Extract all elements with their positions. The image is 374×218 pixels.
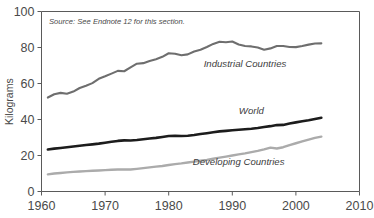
series-label-world: World xyxy=(239,105,265,116)
x-tick-label-1980: 1980 xyxy=(155,199,183,213)
x-tick-label-2000: 2000 xyxy=(282,199,310,213)
series-line-world xyxy=(48,118,321,150)
series-label-industrial-countries: Industrial Countries xyxy=(204,58,287,69)
chart-container: 020406080100 196019701980199020002010 In… xyxy=(0,0,374,218)
y-tick-label-80: 80 xyxy=(21,41,35,55)
kilograms-line-chart: 020406080100 196019701980199020002010 In… xyxy=(0,0,374,218)
x-tick-label-1990: 1990 xyxy=(218,199,246,213)
x-tick-label-1970: 1970 xyxy=(91,199,119,213)
x-tick-label-1960: 1960 xyxy=(28,199,56,213)
x-tick-label-2010: 2010 xyxy=(346,199,374,213)
y-tick-label-20: 20 xyxy=(21,149,35,163)
y-axis-title: Kilograms xyxy=(3,78,15,125)
series-label-developing-countries: Developing Countries xyxy=(193,156,285,167)
source-note: Source: See Endnote 12 for this section. xyxy=(49,17,185,26)
y-tick-label-60: 60 xyxy=(21,77,35,91)
y-axis-tick-labels: 020406080100 xyxy=(14,5,35,199)
series-line-industrial-countries xyxy=(48,42,321,98)
y-tick-label-0: 0 xyxy=(28,185,35,199)
x-axis-tick-labels: 196019701980199020002010 xyxy=(28,199,374,213)
y-tick-label-40: 40 xyxy=(21,113,35,127)
axis-tick-marks xyxy=(38,12,360,196)
series-inline-labels: Industrial CountriesWorldDeveloping Coun… xyxy=(193,58,287,166)
y-tick-label-100: 100 xyxy=(14,5,35,19)
